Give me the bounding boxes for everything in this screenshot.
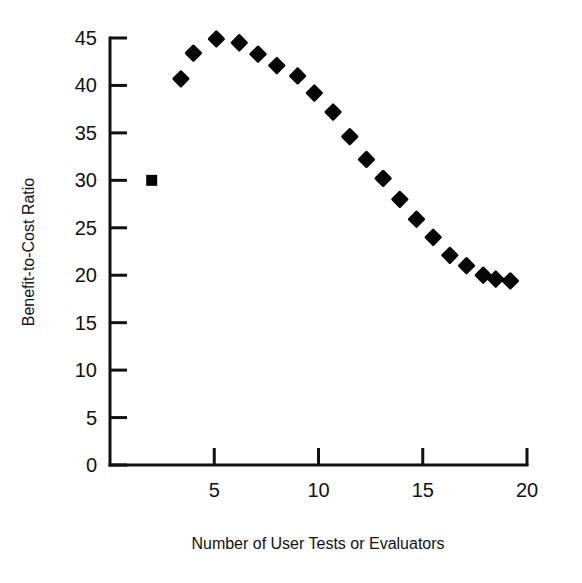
y-tick-label: 5: [86, 407, 97, 429]
data-point-marker: [230, 34, 248, 52]
data-point-marker: [501, 272, 519, 290]
x-tick-label: 15: [412, 479, 434, 501]
y-axis-title: Benefit-to-Cost Ratio: [20, 178, 37, 327]
y-tick-label: 10: [75, 359, 97, 381]
x-axis-ticks: [214, 448, 527, 465]
data-point-marker: [207, 30, 225, 48]
data-point-marker: [457, 257, 475, 275]
data-point-marker: [357, 150, 375, 168]
y-tick-label: 45: [75, 27, 97, 49]
data-point-marker: [172, 70, 190, 88]
x-axis-title: Number of User Tests or Evaluators: [191, 535, 444, 552]
y-tick-label: 40: [75, 74, 97, 96]
y-tick-label: 30: [75, 169, 97, 191]
x-tick-label: 10: [307, 479, 329, 501]
axes: [110, 38, 527, 465]
data-point-marker: [374, 169, 392, 187]
y-tick-label: 15: [75, 312, 97, 334]
data-point-marker: [391, 190, 409, 208]
y-tick-label: 0: [86, 454, 97, 476]
y-tick-label: 35: [75, 122, 97, 144]
data-point-marker: [288, 67, 306, 85]
data-point-marker: [341, 127, 359, 145]
y-tick-label: 20: [75, 264, 97, 286]
data-point-marker: [305, 84, 323, 102]
data-point-marker: [184, 44, 202, 62]
data-point-marker: [249, 45, 267, 63]
data-point-marker: [424, 228, 442, 246]
data-point-marker: [407, 210, 425, 228]
data-point-marker: [268, 56, 286, 74]
data-point-marker: [441, 246, 459, 264]
x-tick-label: 20: [516, 479, 538, 501]
chart-figure: 051015202530354045 5101520 Number of Use…: [0, 0, 582, 583]
data-point-marker: [146, 175, 157, 186]
x-tick-label: 5: [209, 479, 220, 501]
scatter-plot: 051015202530354045 5101520 Number of Use…: [0, 0, 582, 583]
y-axis-ticks: [110, 38, 127, 465]
y-tick-label: 25: [75, 217, 97, 239]
data-point-marker: [324, 103, 342, 121]
x-axis-tick-labels: 5101520: [209, 479, 538, 501]
y-axis-tick-labels: 051015202530354045: [75, 27, 97, 476]
data-point-markers: [146, 30, 519, 290]
